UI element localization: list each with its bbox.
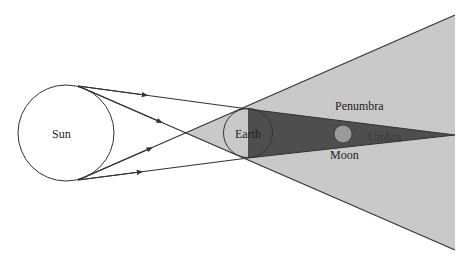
penumbra-label: Penumbra xyxy=(335,99,384,113)
sun-label: Sun xyxy=(52,127,71,141)
umbra-label: Umbra xyxy=(368,130,402,144)
eclipse-diagram: Sun Earth Penumbra Umbra Moon xyxy=(0,0,473,263)
moon-label: Moon xyxy=(330,148,359,162)
earth-label: Earth xyxy=(235,127,261,141)
moon-circle xyxy=(334,125,352,143)
